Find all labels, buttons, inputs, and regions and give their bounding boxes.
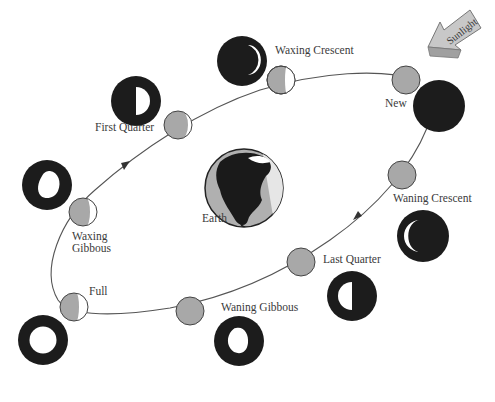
- earth: Earth: [202, 149, 290, 240]
- phase-first-quarter: First Quarter: [95, 76, 195, 139]
- moon-phases-diagram: Sunlight Earth New Waxing Crescent F: [0, 0, 495, 402]
- phase-label-waxing-gibbous-line2: Gibbous: [72, 242, 112, 254]
- phase-waning-crescent: Waning Crescent: [388, 161, 472, 262]
- phase-label-waning-crescent: Waning Crescent: [393, 192, 472, 205]
- orbit-direction-arrow-icon: [121, 161, 130, 170]
- phase-new: New: [385, 66, 465, 132]
- phase-waxing-crescent: Waxing Crescent: [217, 36, 354, 96]
- phase-label-full: Full: [89, 285, 108, 297]
- new-moon-view-disc: [413, 80, 465, 132]
- phase-label-last-quarter: Last Quarter: [323, 253, 381, 265]
- phase-last-quarter: Last Quarter: [287, 248, 381, 321]
- phase-full: Full: [18, 285, 108, 365]
- phase-label-new: New: [385, 97, 407, 109]
- phase-label-waxing-crescent: Waxing Crescent: [275, 44, 354, 57]
- phase-waxing-gibbous: Waxing Gibbous: [22, 160, 112, 254]
- phase-label-waning-gibbous: Waning Gibbous: [221, 301, 299, 314]
- sunlight-arrow-icon: Sunlight: [428, 10, 481, 58]
- phase-waning-gibbous: Waning Gibbous: [176, 297, 299, 366]
- phase-label-first-quarter: First Quarter: [95, 121, 154, 133]
- full-lit-shape: [30, 327, 57, 354]
- earth-label: Earth: [202, 212, 227, 224]
